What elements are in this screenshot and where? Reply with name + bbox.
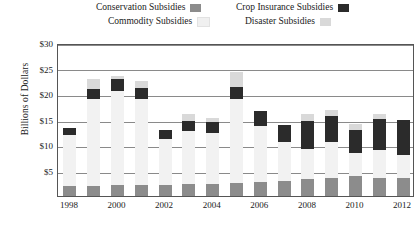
plot-area bbox=[57, 44, 414, 197]
bar-segment bbox=[182, 131, 195, 185]
y-axis-tick-label: $10 bbox=[1, 142, 53, 151]
bar-column[interactable] bbox=[87, 44, 100, 196]
bar-column[interactable] bbox=[301, 44, 314, 196]
bar-column[interactable] bbox=[325, 44, 338, 196]
bar-segment bbox=[135, 99, 148, 186]
bar-segment bbox=[87, 89, 100, 99]
bar-segment bbox=[325, 110, 338, 117]
bar-segment bbox=[254, 126, 267, 182]
bar-segment bbox=[397, 120, 410, 155]
bar-segment bbox=[373, 178, 386, 196]
x-axis-tick-label: 2006 bbox=[239, 200, 279, 211]
bar-segment bbox=[230, 72, 243, 87]
bar-column[interactable] bbox=[135, 44, 148, 196]
bar-segment bbox=[230, 87, 243, 99]
legend-label-disaster-subsidies: Disaster Subsidies bbox=[245, 16, 315, 27]
legend-label-conservation-subsidies: Conservation Subsidies bbox=[96, 2, 185, 13]
bar-segment bbox=[87, 79, 100, 89]
bar-segment bbox=[230, 183, 243, 196]
bar-segment bbox=[182, 114, 195, 120]
bar-segment bbox=[301, 121, 314, 149]
bar-segment bbox=[135, 81, 148, 88]
legend-item-commodity-subsidies[interactable]: Commodity Subsidies bbox=[108, 16, 210, 27]
bar-column[interactable] bbox=[230, 44, 243, 196]
bar-segment bbox=[87, 186, 100, 196]
bar-column[interactable] bbox=[349, 44, 362, 196]
bar-segment bbox=[230, 99, 243, 183]
bar-segment bbox=[206, 133, 219, 184]
bar-segment bbox=[325, 116, 338, 142]
bar-segment bbox=[373, 114, 386, 119]
bar-column[interactable] bbox=[159, 44, 172, 196]
bar-segment bbox=[301, 114, 314, 121]
bar-segment bbox=[373, 150, 386, 178]
bar-segment bbox=[278, 142, 291, 180]
bar-column[interactable] bbox=[373, 44, 386, 196]
bar-column[interactable] bbox=[111, 44, 124, 196]
legend-item-crop-insurance-subsidies[interactable]: Crop Insurance Subsidies bbox=[236, 2, 349, 13]
y-axis-tick-label: $25 bbox=[1, 66, 53, 75]
bar-segment bbox=[135, 88, 148, 99]
bar-segment bbox=[349, 124, 362, 131]
bar-segment bbox=[278, 125, 291, 143]
x-axis-tick-label: 2008 bbox=[287, 200, 327, 211]
bar-segment bbox=[349, 176, 362, 196]
x-axis-tick-labels: 19982000200220042006200820102012 bbox=[57, 200, 414, 216]
bar-segment bbox=[159, 130, 172, 139]
legend-label-crop-insurance-subsidies: Crop Insurance Subsidies bbox=[236, 2, 333, 13]
bar-column[interactable] bbox=[182, 44, 195, 196]
bar-segment bbox=[159, 185, 172, 196]
bar-column[interactable] bbox=[254, 44, 267, 196]
x-axis-tick-label: 2002 bbox=[144, 200, 184, 211]
bar-segment bbox=[349, 130, 362, 153]
bar-segment bbox=[135, 185, 148, 196]
bar-column[interactable] bbox=[63, 44, 76, 196]
bar-segment bbox=[206, 122, 219, 133]
legend-swatch-crop-insurance-subsidies bbox=[338, 4, 349, 12]
x-axis-tick-label: 2000 bbox=[97, 200, 137, 211]
bar-segment bbox=[325, 178, 338, 196]
bar-segment bbox=[206, 184, 219, 196]
y-axis-tick-label: $5 bbox=[1, 168, 53, 177]
legend-item-conservation-subsidies[interactable]: Conservation Subsidies bbox=[96, 2, 201, 13]
bar-segment bbox=[182, 184, 195, 196]
bar-segment bbox=[301, 179, 314, 196]
chart-figure: Conservation Subsidies Crop Insurance Su… bbox=[0, 0, 419, 230]
y-axis-tick-label: $15 bbox=[1, 117, 53, 126]
bar-segment bbox=[325, 142, 338, 178]
legend-swatch-commodity-subsidies bbox=[197, 17, 210, 27]
bar-segment bbox=[349, 153, 362, 176]
bar-segment bbox=[63, 135, 76, 186]
bar-segment bbox=[111, 76, 124, 79]
bar-segment bbox=[373, 119, 386, 150]
bar-segment bbox=[87, 99, 100, 186]
x-axis-tick-label: 1998 bbox=[49, 200, 89, 211]
bar-segment bbox=[206, 118, 219, 121]
y-axis-tick-label: $20 bbox=[1, 91, 53, 100]
legend-item-disaster-subsidies[interactable]: Disaster Subsidies bbox=[245, 16, 331, 27]
bar-segment bbox=[254, 182, 267, 196]
bar-segment bbox=[254, 111, 267, 125]
bar-segment bbox=[301, 149, 314, 180]
bar-segment bbox=[182, 121, 195, 131]
bar-segment bbox=[397, 178, 410, 196]
bar-segment bbox=[397, 155, 410, 178]
bar-segment bbox=[111, 91, 124, 185]
bar-segment bbox=[111, 185, 124, 196]
chart-legend: Conservation Subsidies Crop Insurance Su… bbox=[88, 1, 388, 31]
x-axis-tick-label: 2004 bbox=[192, 200, 232, 211]
x-axis-tick-label: 2010 bbox=[335, 200, 375, 211]
bar-segment bbox=[278, 181, 291, 196]
bar-segment bbox=[63, 186, 76, 196]
x-axis-tick-label: 2012 bbox=[382, 200, 419, 211]
y-axis-tick-label: $30 bbox=[1, 40, 53, 49]
bar-column[interactable] bbox=[397, 44, 410, 196]
legend-label-commodity-subsidies: Commodity Subsidies bbox=[108, 16, 192, 27]
bar-column[interactable] bbox=[206, 44, 219, 196]
bar-segment bbox=[159, 139, 172, 185]
legend-swatch-conservation-subsidies bbox=[190, 4, 201, 12]
legend-swatch-disaster-subsidies bbox=[320, 18, 331, 26]
bar-segment bbox=[111, 79, 124, 91]
bar-column[interactable] bbox=[278, 44, 291, 196]
y-axis-tick-labels: $30$25$20$15$10$5 bbox=[0, 44, 53, 197]
